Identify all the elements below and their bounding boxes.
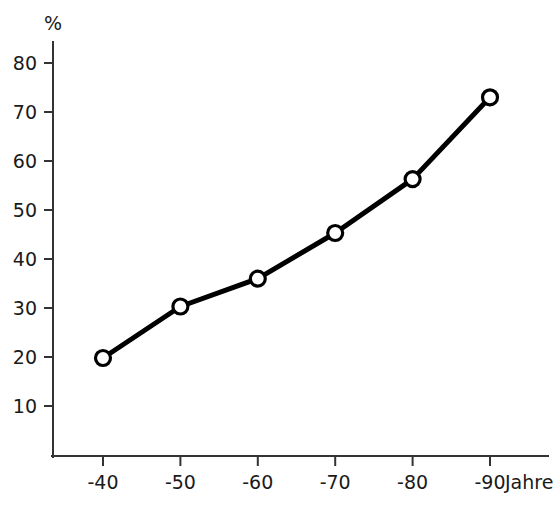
x-axis-unit-label: Jahre — [504, 471, 553, 493]
y-tick-label: 40 — [13, 248, 37, 270]
y-tick-label: 50 — [13, 199, 37, 221]
x-tick-label: -80 — [397, 471, 428, 493]
chart-background — [0, 0, 559, 509]
y-tick-label: 30 — [13, 297, 37, 319]
y-tick-label: 80 — [13, 52, 37, 74]
y-tick-label: 10 — [13, 395, 37, 417]
x-tick-label: -60 — [242, 471, 273, 493]
line-chart: % 1020304050607080 -40-50-60-70-80-90 Ja… — [0, 0, 559, 509]
y-tick-label: 60 — [13, 150, 37, 172]
data-point-marker — [328, 226, 343, 241]
x-tick-label: -70 — [320, 471, 351, 493]
data-point-marker — [405, 172, 420, 187]
data-point-marker — [96, 351, 111, 366]
data-point-marker — [250, 271, 265, 286]
y-tick-label: 70 — [13, 101, 37, 123]
x-tick-label: -90 — [474, 471, 505, 493]
chart-container: % 1020304050607080 -40-50-60-70-80-90 Ja… — [0, 0, 559, 509]
y-axis-unit-label: % — [44, 12, 62, 34]
data-point-marker — [483, 90, 498, 105]
x-tick-label: -40 — [87, 471, 118, 493]
y-tick-label: 20 — [13, 346, 37, 368]
data-point-marker — [173, 299, 188, 314]
x-tick-label: -50 — [165, 471, 196, 493]
